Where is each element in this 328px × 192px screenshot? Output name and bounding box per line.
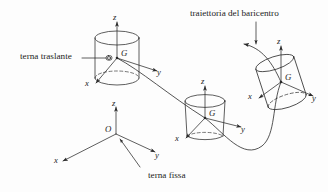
cylinder-2-label-z: z <box>201 76 204 86</box>
cylinder-1-label-G: G <box>121 48 127 58</box>
cylinder-3-label-y: y <box>312 93 316 103</box>
fixed-frame-axes <box>63 107 155 161</box>
cylinder-3-label-z: z <box>277 36 280 46</box>
cylinder-3-label-G: G <box>285 72 291 82</box>
cylinder-1-label-y: y <box>157 67 161 77</box>
cylinder-1-label-x: x <box>85 78 89 88</box>
cylinder-2-label-G: G <box>209 108 215 118</box>
fixed-frame-leader <box>120 139 140 167</box>
fixed-frame-label-O: O <box>105 124 111 134</box>
caption-terna-traslante: terna traslante <box>20 51 72 61</box>
cylinder-1-origin-marker <box>106 56 112 61</box>
figure-canvas: terna traslante traiettoria del baricent… <box>0 0 328 192</box>
caption-traiettoria-del-baricentro: traiettoria del baricentro <box>190 8 279 18</box>
trajectory-of-centre-of-mass <box>117 44 281 150</box>
cylinder-2-label-y: y <box>241 124 245 134</box>
fixed-frame-label-z: z <box>112 98 115 108</box>
cylinder-3-label-x: x <box>248 91 252 101</box>
fixed-frame-label-x: x <box>54 155 58 165</box>
caption-terna-fissa: terna fissa <box>148 170 186 180</box>
diagram-svg <box>0 0 328 192</box>
cylinder-2-label-x: x <box>175 133 179 143</box>
cylinder-1-label-z: z <box>113 12 116 22</box>
fixed-frame-label-y: y <box>155 150 159 160</box>
